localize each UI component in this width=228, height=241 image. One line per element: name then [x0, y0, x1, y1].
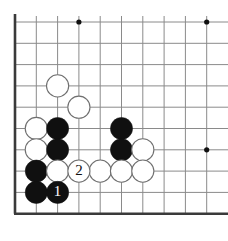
white-stone[interactable]	[68, 160, 90, 182]
black-stone[interactable]	[47, 181, 69, 203]
white-stone[interactable]	[47, 75, 69, 97]
black-stone[interactable]	[110, 117, 132, 139]
star-point	[204, 147, 209, 152]
star-point	[204, 19, 209, 24]
go-board-diagram: 12	[0, 0, 228, 241]
black-stone[interactable]	[110, 139, 132, 161]
white-stone[interactable]	[132, 139, 154, 161]
stones-layer	[25, 75, 154, 204]
grid-lines	[15, 16, 228, 214]
white-stone[interactable]	[25, 117, 47, 139]
goban-grid	[0, 0, 228, 241]
white-stone[interactable]	[68, 96, 90, 118]
white-stone[interactable]	[89, 160, 111, 182]
black-stone[interactable]	[47, 117, 69, 139]
white-stone[interactable]	[25, 139, 47, 161]
white-stone[interactable]	[47, 160, 69, 182]
black-stone[interactable]	[25, 160, 47, 182]
black-stone[interactable]	[47, 139, 69, 161]
black-stone[interactable]	[25, 181, 47, 203]
star-point	[76, 19, 81, 24]
white-stone[interactable]	[110, 160, 132, 182]
white-stone[interactable]	[132, 160, 154, 182]
